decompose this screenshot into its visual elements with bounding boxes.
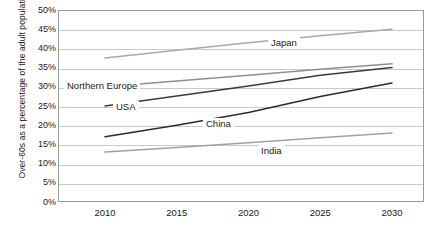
y-tick-label: 30% [10, 82, 56, 91]
x-tick-label: 2030 [362, 207, 422, 218]
y-tick-label: 35% [10, 63, 56, 72]
series-line-northern-europe [105, 64, 392, 87]
y-tick-label: 50% [10, 6, 56, 15]
series-line-japan [105, 29, 392, 58]
gridline [59, 203, 423, 204]
series-line-india [105, 133, 392, 152]
y-tick-label: 20% [10, 121, 56, 130]
y-tick-label: 15% [10, 140, 56, 149]
series-label-northern-europe: Northern Europe [64, 80, 140, 91]
x-tick-label: 2025 [290, 207, 350, 218]
y-tick-label: 0% [10, 198, 56, 207]
series-label-china: China [203, 118, 234, 129]
series-label-india: India [258, 145, 285, 156]
x-tick-label: 2015 [147, 207, 207, 218]
series-line-usa [105, 68, 392, 106]
series-label-japan: Japan [268, 37, 300, 48]
x-tick-label: 2010 [75, 207, 135, 218]
y-tick-label: 25% [10, 102, 56, 111]
series-line-china [105, 83, 392, 137]
series-label-usa: USA [113, 101, 139, 112]
y-tick-label: 5% [10, 178, 56, 187]
y-tick-label: 40% [10, 44, 56, 53]
line-chart: Over-60s as a percentage of the adult po… [0, 0, 438, 246]
y-tick-label: 45% [10, 25, 56, 34]
x-tick-label: 2020 [219, 207, 279, 218]
y-tick-label: 10% [10, 159, 56, 168]
